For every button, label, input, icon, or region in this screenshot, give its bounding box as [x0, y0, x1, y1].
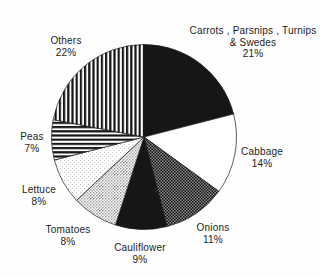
slice-label-others-line-1: Others — [50, 35, 81, 46]
slice-label-others-line-2: 22% — [56, 47, 77, 58]
slice-label-tomatoes-line-2: 8% — [61, 236, 76, 247]
slice-label-lettuce-line-1: Lettuce — [22, 184, 56, 195]
pie-chart-svg: Carrots , Parsnips , Turnips& Swedes21%C… — [0, 0, 321, 277]
slice-label-carrots-parsnips-turnips-swedes-line-2: & Swedes — [230, 37, 277, 48]
pie-chart-figure: Carrots , Parsnips , Turnips& Swedes21%C… — [0, 0, 321, 277]
slice-label-onions-line-1: Onions — [197, 222, 230, 233]
slice-label-lettuce-line-2: 8% — [32, 196, 47, 207]
slice-label-peas-line-1: Peas — [20, 131, 44, 142]
slice-label-cauliflower-line-1: Cauliflower — [114, 242, 166, 253]
slice-label-cabbage-line-1: Cabbage — [241, 146, 283, 157]
pie-slices-group — [52, 45, 237, 230]
slice-label-peas-line-2: 7% — [25, 143, 40, 154]
slice-label-carrots-parsnips-turnips-swedes-line-3: 21% — [243, 48, 264, 59]
slice-label-cabbage-line-2: 14% — [252, 158, 273, 169]
slice-label-tomatoes-line-1: Tomatoes — [46, 224, 91, 235]
slice-label-carrots-parsnips-turnips-swedes-line-1: Carrots , Parsnips , Turnips — [190, 25, 317, 36]
slice-label-cauliflower-line-2: 9% — [133, 254, 148, 265]
slice-label-onions-line-2: 11% — [203, 234, 223, 245]
